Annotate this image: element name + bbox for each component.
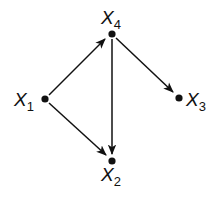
dag-diagram: X1 X2 X3 X4	[0, 0, 221, 201]
edge-x4-x3	[116, 38, 173, 92]
label-x3: X3	[185, 89, 206, 114]
edge-x1-x2	[49, 103, 106, 155]
node-x1	[41, 95, 48, 102]
edges	[49, 38, 173, 155]
label-x1: X1	[13, 89, 34, 114]
node-x3	[175, 94, 182, 101]
edge-x1-x4	[49, 39, 105, 95]
label-x4: X4	[100, 7, 121, 32]
label-x2: X2	[100, 164, 121, 189]
